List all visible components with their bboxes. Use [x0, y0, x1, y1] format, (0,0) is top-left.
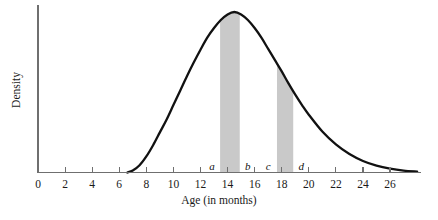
x-axis-tick-labels: 02468101214161820222426 — [35, 178, 396, 190]
x-axis-tick-label-8: 8 — [143, 178, 149, 190]
boundary-label-b: b — [245, 160, 251, 172]
y-axis-title: Density — [10, 72, 23, 108]
density-curve — [127, 12, 417, 173]
shaded-region-cd — [277, 64, 293, 173]
x-axis-tick-label-0: 0 — [35, 178, 41, 190]
density-plot-svg: 02468101214161820222426 abcd Age (in mon… — [0, 0, 438, 220]
x-axis-tick-label-24: 24 — [357, 178, 369, 190]
x-axis-tick-label-18: 18 — [276, 178, 288, 190]
shaded-region-ab — [220, 12, 240, 172]
x-axis-tick-label-26: 26 — [384, 178, 396, 190]
x-axis-tick-label-16: 16 — [249, 178, 261, 190]
x-axis-tick-label-20: 20 — [303, 178, 315, 190]
x-axis-tick-label-12: 12 — [195, 178, 207, 190]
x-axis-title: Age (in months) — [181, 194, 257, 207]
x-axis-tick-label-10: 10 — [168, 178, 180, 190]
x-axis-tick-label-14: 14 — [222, 178, 234, 190]
x-axis-tick-label-22: 22 — [330, 178, 342, 190]
x-axis-tick-label-4: 4 — [89, 178, 95, 190]
boundary-label-d: d — [299, 160, 305, 172]
density-chart-figure: 02468101214161820222426 abcd Age (in mon… — [0, 0, 438, 220]
boundary-label-a: a — [209, 160, 215, 172]
shaded-regions-group — [220, 12, 293, 172]
x-axis-tick-label-6: 6 — [116, 178, 122, 190]
boundary-label-c: c — [266, 160, 271, 172]
x-axis-tick-label-2: 2 — [62, 178, 68, 190]
